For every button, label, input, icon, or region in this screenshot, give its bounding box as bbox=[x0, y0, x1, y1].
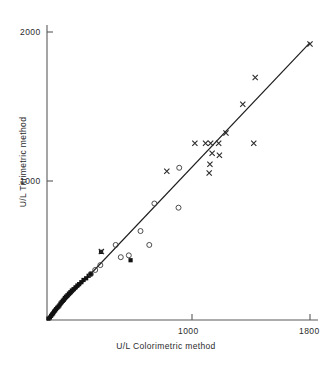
data-point-cross bbox=[164, 169, 169, 174]
y-tick-label-2000: 2000 bbox=[20, 27, 41, 37]
data-layer bbox=[46, 41, 312, 320]
data-point-open-circle bbox=[152, 201, 157, 206]
series-filled-square bbox=[46, 250, 132, 321]
data-point-cross bbox=[203, 141, 208, 146]
data-point-cross bbox=[251, 141, 256, 146]
data-point-open-circle bbox=[177, 165, 182, 170]
data-point-open-circle bbox=[118, 255, 123, 260]
data-point-cross bbox=[208, 141, 213, 146]
x-axis-title: U/L Colorimetric method bbox=[0, 341, 332, 351]
data-point-filled-square bbox=[128, 258, 132, 262]
scatter-plot-figure: 2000 1000 1000 1800 U/L Colorimetric met… bbox=[0, 0, 332, 366]
data-point-cross bbox=[207, 162, 212, 167]
data-point-open-circle bbox=[126, 253, 131, 258]
data-point-cross bbox=[192, 141, 197, 146]
data-point-open-circle bbox=[176, 205, 181, 210]
plot-canvas bbox=[0, 0, 332, 366]
series-open-circle bbox=[88, 165, 181, 276]
data-point-cross bbox=[216, 141, 221, 146]
data-point-cross bbox=[207, 170, 212, 175]
data-point-open-circle bbox=[147, 242, 152, 247]
x-tick-label-1800: 1800 bbox=[299, 326, 320, 336]
x-tick-label-1000: 1000 bbox=[178, 326, 199, 336]
data-point-cross bbox=[217, 153, 222, 158]
data-point-cross bbox=[240, 102, 245, 107]
y-axis-title: U/L Titrimetric method bbox=[18, 92, 28, 232]
data-point-open-circle bbox=[138, 229, 143, 234]
data-point-cross bbox=[210, 151, 215, 156]
data-point-cross bbox=[253, 75, 258, 80]
